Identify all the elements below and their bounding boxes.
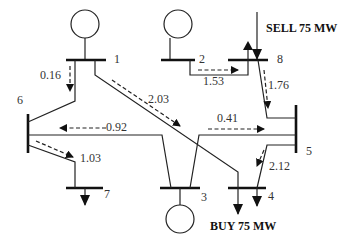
flow-3-5-value: 0.41 <box>217 111 238 125</box>
flow-1-4-value: 2.03 <box>148 92 169 106</box>
flow-5-4-value: 2.12 <box>269 159 290 173</box>
bus-8-label: 8 <box>277 52 283 66</box>
bus-2: 2 <box>161 10 205 66</box>
bus-6-label: 6 <box>17 93 23 107</box>
flow-3-6-value: 0.92 <box>106 120 127 134</box>
bus-6: 6 <box>17 93 28 153</box>
flow-8-5-value: 1.76 <box>268 78 289 92</box>
line-6-7 <box>28 145 75 188</box>
bus-4: 4 BUY 75 MW <box>210 188 276 233</box>
generator-1-icon <box>71 10 99 38</box>
bus-5: 5 <box>296 105 312 158</box>
bus-3: 3 <box>160 188 207 233</box>
flow-1-6-value: 0.16 <box>40 68 61 82</box>
generator-3-icon <box>166 205 194 233</box>
generator-2-icon <box>164 10 192 38</box>
bus-1-label: 1 <box>114 52 120 66</box>
sell-label: SELL 75 MW <box>266 21 337 35</box>
bus-1: 1 <box>66 10 120 66</box>
flow-6-7-value: 1.03 <box>80 151 101 165</box>
bus-5-label: 5 <box>306 144 312 158</box>
bus-7-label: 7 <box>104 187 110 201</box>
bus-8-up-arrow-icon <box>243 41 253 50</box>
bus-3-label: 3 <box>201 190 207 204</box>
bus-8: 8 SELL 75 MW <box>228 12 337 66</box>
bus-7: 7 <box>66 187 110 205</box>
bus-2-label: 2 <box>199 52 205 66</box>
bus-4-label: 4 <box>268 189 274 203</box>
buy-label: BUY 75 MW <box>210 219 276 233</box>
power-system-diagram: 1 2 8 SELL 75 MW 6 7 3 4 BUY 75 M <box>0 0 361 249</box>
flow-2-8-value: 1.53 <box>203 74 224 88</box>
